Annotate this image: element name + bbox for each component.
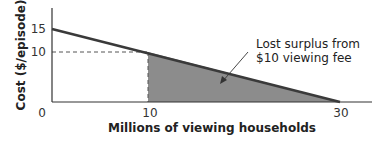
x-tick-30: 30 [333,106,348,120]
y-tick-10: 10 [31,45,46,59]
x-axis-label: Millions of viewing households [108,121,316,135]
x-tick-10: 10 [142,106,157,120]
x-tick-0: 0 [38,106,46,120]
chart: 15 10 0 10 30 Millions of viewing househ… [0,0,386,143]
annotation-line-1: Lost surplus from [256,37,360,51]
y-axis-label: Cost ($/episode) [14,0,28,110]
annotation-line-2: $10 viewing fee [256,51,352,65]
y-tick-15: 15 [31,22,46,36]
